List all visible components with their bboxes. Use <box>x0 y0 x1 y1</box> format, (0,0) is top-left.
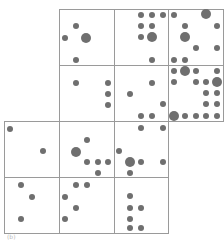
small-dot <box>214 90 220 96</box>
small-dot <box>95 159 101 165</box>
small-dot <box>105 80 111 86</box>
grid-cell-r1c3 <box>169 10 224 66</box>
small-dot <box>105 102 111 108</box>
small-dot <box>149 113 155 119</box>
small-dot <box>214 101 220 107</box>
small-dot <box>149 80 155 86</box>
small-dot <box>138 159 144 165</box>
small-dot <box>84 137 90 143</box>
small-dot <box>160 125 166 131</box>
grid-cells <box>5 10 224 234</box>
small-dot <box>214 23 220 29</box>
small-dot <box>214 113 220 119</box>
small-dot <box>193 113 199 119</box>
small-dot <box>73 23 79 29</box>
small-dot <box>18 182 24 188</box>
small-dot <box>160 101 166 107</box>
small-dot <box>149 57 155 63</box>
dot-grid-diagram <box>0 0 224 241</box>
small-dot <box>127 91 133 97</box>
small-dot <box>193 79 199 85</box>
small-dot <box>127 216 133 222</box>
small-dot <box>7 126 13 132</box>
large-dot <box>81 33 91 43</box>
large-dot <box>71 147 81 157</box>
large-dot <box>147 32 157 42</box>
small-dot <box>171 79 177 85</box>
small-dot <box>62 194 68 200</box>
small-dot <box>73 205 79 211</box>
small-dot <box>138 23 144 29</box>
small-dot <box>138 113 144 119</box>
small-dot <box>95 170 101 176</box>
small-dot <box>18 216 24 222</box>
small-dot <box>149 23 155 29</box>
small-dot <box>214 68 220 74</box>
small-dot <box>62 216 68 222</box>
small-dot <box>29 194 35 200</box>
large-dot <box>180 66 190 76</box>
small-dot <box>138 12 144 18</box>
small-dot <box>105 91 111 97</box>
large-dot <box>125 157 135 167</box>
small-dot <box>171 68 177 74</box>
figure-caption: (b) <box>7 233 16 240</box>
small-dot <box>182 23 188 29</box>
small-dot <box>127 225 133 231</box>
small-dot <box>127 170 133 176</box>
small-dot <box>138 225 144 231</box>
small-dot <box>182 57 188 63</box>
small-dot <box>160 159 166 165</box>
small-dot <box>171 57 177 63</box>
small-dot <box>84 159 90 165</box>
large-dot <box>201 9 211 19</box>
small-dot <box>182 113 188 119</box>
small-dot <box>203 113 209 119</box>
small-dot <box>116 148 122 154</box>
small-dot <box>203 79 209 85</box>
small-dot <box>73 182 79 188</box>
small-dot <box>171 12 177 18</box>
small-dot <box>127 205 133 211</box>
small-dot <box>40 148 46 154</box>
small-dot <box>138 205 144 211</box>
small-dot <box>138 34 144 40</box>
small-dot <box>73 57 79 63</box>
large-dot <box>169 111 179 121</box>
small-dot <box>203 90 209 96</box>
grid-cell-r3c2 <box>60 122 115 178</box>
small-dot <box>203 101 209 107</box>
small-dot <box>73 80 79 86</box>
large-dot <box>180 32 190 42</box>
large-dot <box>212 77 222 87</box>
grid-cell-r4c1 <box>5 178 60 234</box>
small-dot <box>193 68 199 74</box>
small-dot <box>149 12 155 18</box>
small-dot <box>105 159 111 165</box>
small-dot <box>62 35 68 41</box>
small-dot <box>193 45 199 51</box>
small-dot <box>160 12 166 18</box>
small-dot <box>138 125 144 131</box>
small-dot <box>127 193 133 199</box>
small-dot <box>214 45 220 51</box>
small-dot <box>84 182 90 188</box>
